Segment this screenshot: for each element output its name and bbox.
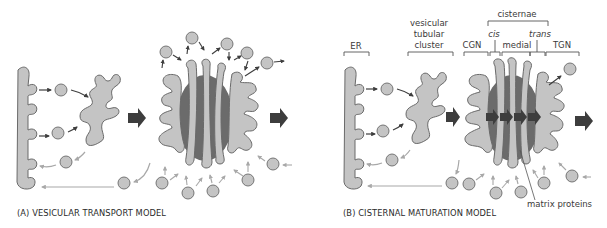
vesicle xyxy=(55,84,67,96)
vesicle xyxy=(60,156,72,168)
progress-arrow xyxy=(128,108,146,128)
progress-arrow xyxy=(446,107,460,127)
vesicular-tubular-cluster xyxy=(80,75,120,146)
bracket-vtc xyxy=(408,52,453,56)
label-er: ER xyxy=(350,41,361,51)
er-membrane xyxy=(344,67,364,189)
bracket-cgn xyxy=(464,52,488,56)
progress-arrow xyxy=(270,108,288,128)
label-vtc-3: cluster xyxy=(415,40,444,50)
label-cisternae: cisternae xyxy=(497,9,536,19)
label-vtc-1: vesicular xyxy=(410,18,449,28)
vesicular-tubular-cluster xyxy=(406,73,446,144)
bracket-cisternae xyxy=(488,21,548,26)
label-matrix-proteins: matrix proteins xyxy=(527,199,593,209)
vesicle xyxy=(118,177,130,189)
panel-b: ER vesicular tubular cluster cisternae C… xyxy=(343,9,593,218)
panel-a-caption: (A) VESICULAR TRANSPORT MODEL xyxy=(17,208,166,218)
golgi-stack xyxy=(159,59,258,168)
bottom-vesicles xyxy=(156,156,292,199)
label-cgn: CGN xyxy=(463,40,482,50)
label-medial: medial xyxy=(503,40,532,50)
panel-b-caption: (B) CISTERNAL MATURATION MODEL xyxy=(343,208,496,218)
er-membrane xyxy=(17,67,37,189)
bracket-tgn xyxy=(546,52,579,56)
golgi-transport-models-diagram: (A) VESICULAR TRANSPORT MODEL ER vesicul… xyxy=(0,0,607,228)
bracket-er xyxy=(344,52,369,56)
golgi-stack xyxy=(465,58,564,168)
label-tgn: TGN xyxy=(552,40,571,50)
bracket-trans xyxy=(530,40,545,56)
panel-a: (A) VESICULAR TRANSPORT MODEL xyxy=(17,32,292,218)
bracket-medial xyxy=(502,52,530,56)
label-cis: cis xyxy=(488,29,500,39)
vesicle xyxy=(52,127,64,139)
label-vtc-2: tubular xyxy=(414,29,445,39)
label-trans: trans xyxy=(529,29,551,39)
progress-arrow xyxy=(575,111,593,131)
bracket-cis xyxy=(490,40,500,56)
